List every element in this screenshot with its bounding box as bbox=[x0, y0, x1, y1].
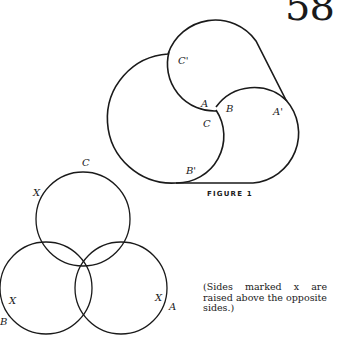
footnote: (Sides marked x are raised above the opp… bbox=[203, 282, 327, 314]
figure-1-arc-c bbox=[167, 52, 217, 111]
label-b-prime: B' bbox=[186, 166, 196, 176]
label-x-top: X bbox=[33, 188, 40, 198]
label-circle-b: B bbox=[0, 317, 7, 327]
circle-a bbox=[75, 242, 167, 334]
circle-c bbox=[36, 172, 130, 266]
label-c-prime: C' bbox=[178, 56, 188, 66]
label-a: A bbox=[201, 99, 208, 109]
label-circle-a: A bbox=[169, 302, 176, 312]
label-circle-c: C bbox=[82, 158, 90, 168]
label-x-right: X bbox=[155, 293, 162, 303]
label-a-prime: A' bbox=[273, 107, 283, 117]
figure-1-arc-b bbox=[176, 110, 224, 183]
figure-caption: FIGURE 1 bbox=[207, 190, 253, 198]
figure-2-drawing bbox=[0, 172, 167, 334]
label-c: C bbox=[203, 119, 211, 129]
label-b: B bbox=[226, 104, 233, 114]
label-x-left: X bbox=[9, 296, 16, 306]
circle-b bbox=[0, 242, 92, 334]
